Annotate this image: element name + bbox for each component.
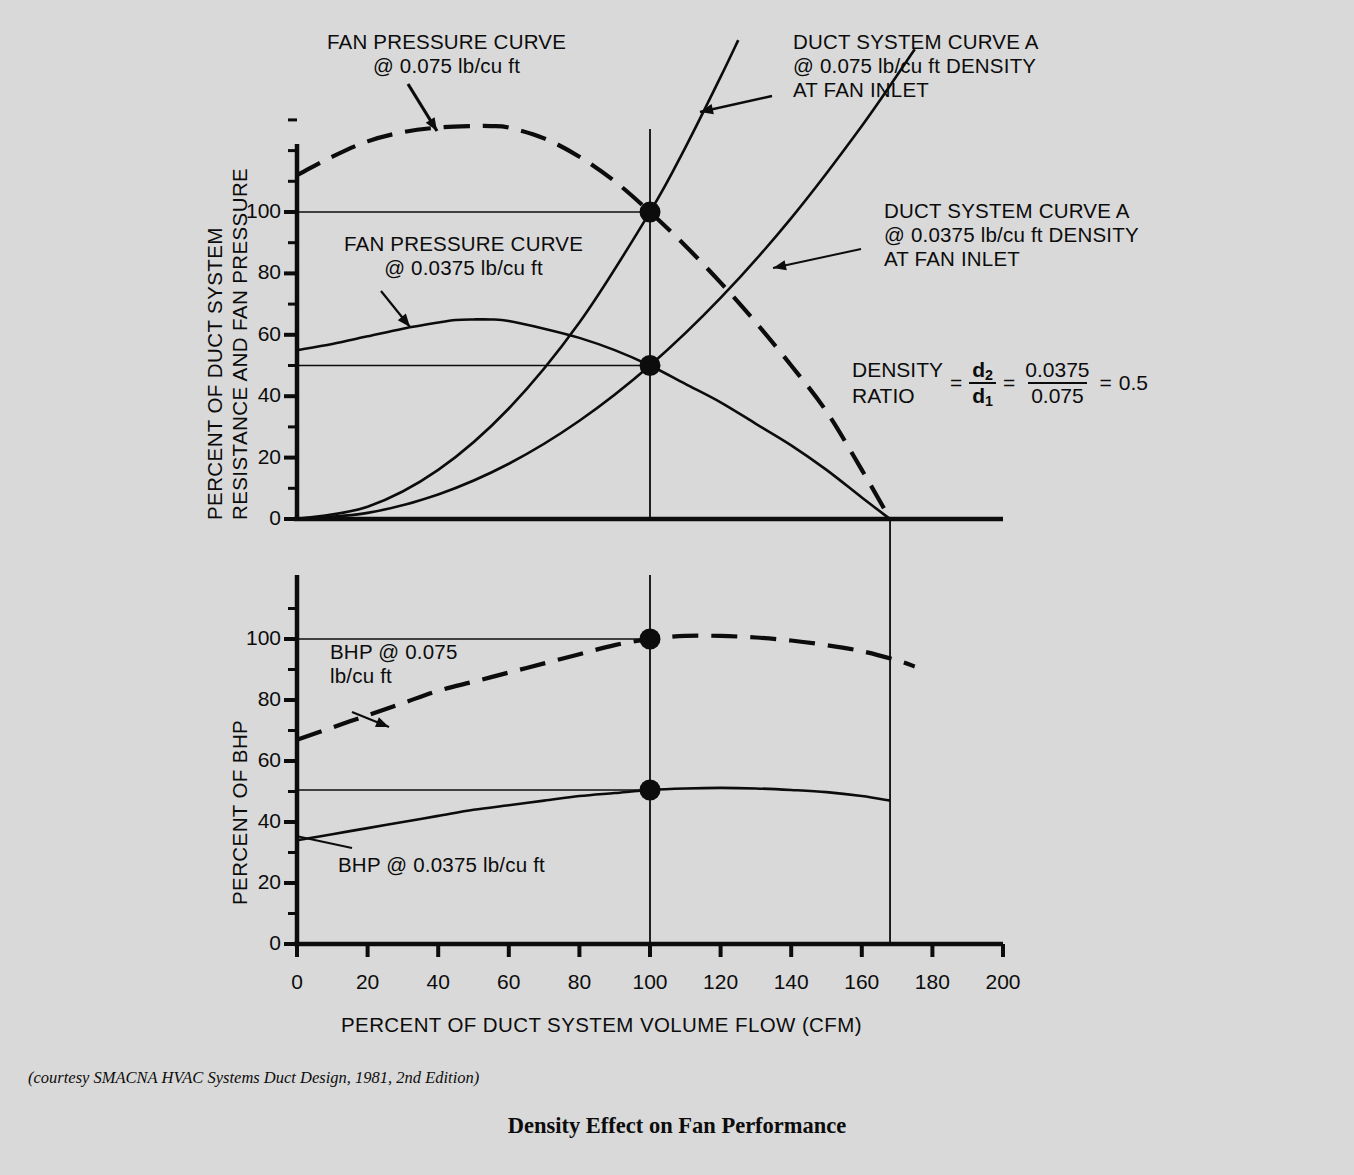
figure-density-effect-on-fan-performance: FAN PRESSURE CURVE @ 0.075 lb/cu ft DUCT… <box>0 0 1354 1175</box>
bhp-chart-y-tick-label-60: 60 <box>227 748 281 773</box>
density-denominator-subscript: 1 <box>985 393 993 409</box>
fan-pressure-curve-0075 <box>297 126 890 519</box>
x-axis-tick-label-40: 40 <box>403 970 473 995</box>
x-axis-tick-label-120: 120 <box>686 970 756 995</box>
equals-sign-3: = <box>1100 371 1112 395</box>
density-ratio-label-line1: DENSITY <box>852 357 943 383</box>
source-caption: (courtesy SMACNA HVAC Systems Duct Desig… <box>28 1068 479 1087</box>
annotation-duct-system-curve-a-0075: DUCT SYSTEM CURVE A @ 0.075 lb/cu ft DEN… <box>793 30 1039 103</box>
pressure-chart-y-tick-label-0: 0 <box>227 506 281 531</box>
density-ratio-label-line2: RATIO <box>852 383 943 409</box>
pressure-chart-y-tick-label-100: 100 <box>227 199 281 224</box>
density-symbol-fraction: d2 d1 <box>969 359 996 406</box>
density-value-fraction: 0.0375 0.075 <box>1022 359 1092 406</box>
density-ratio-equation: DENSITY RATIO = d2 d1 = 0.0375 0.075 = 0… <box>852 357 1148 408</box>
pressure-chart-y-tick-label-80: 80 <box>227 260 281 285</box>
pressure-chart-y-tick-label-40: 40 <box>227 383 281 408</box>
bhp-chart-operating-point-0 <box>640 629 661 650</box>
pressure-chart-operating-point-1 <box>640 355 661 376</box>
annotation-bhp-0075: BHP @ 0.075 lb/cu ft <box>330 640 457 688</box>
bhp-chart-operating-point-1 <box>640 779 661 800</box>
x-axis-title: PERCENT OF DUCT SYSTEM VOLUME FLOW (CFM) <box>341 1013 862 1037</box>
x-axis-tick-label-60: 60 <box>474 970 544 995</box>
pressure-chart-operating-point-0 <box>640 202 661 223</box>
equals-sign-2: = <box>1003 371 1015 395</box>
pressure-chart-y-axis-title-line1: PERCENT OF DUCT SYSTEM <box>203 227 227 520</box>
fan-pressure-curve-00375 <box>297 319 890 519</box>
x-axis-tick-label-80: 80 <box>544 970 614 995</box>
x-axis-tick-label-180: 180 <box>897 970 967 995</box>
density-value-numerator: 0.0375 <box>1022 359 1092 381</box>
x-axis-tick-label-200: 200 <box>968 970 1038 995</box>
density-ratio-label: DENSITY RATIO <box>852 357 943 408</box>
annotation-fan-pressure-curve-0075: FAN PRESSURE CURVE @ 0.075 lb/cu ft <box>304 30 589 78</box>
bhp-curve-00375 <box>297 788 890 840</box>
bhp-chart-y-tick-label-20: 20 <box>227 870 281 895</box>
bhp-chart-y-tick-label-40: 40 <box>227 809 281 834</box>
density-denominator-symbol: d1 <box>969 382 996 406</box>
density-numerator-subscript: 2 <box>985 367 993 383</box>
pressure-chart-y-tick-label-20: 20 <box>227 445 281 470</box>
x-axis-tick-label-140: 140 <box>756 970 826 995</box>
density-numerator-symbol: d2 <box>969 359 996 381</box>
equals-sign-1: = <box>950 371 962 395</box>
annotation-fan-pressure-curve-00375: FAN PRESSURE CURVE @ 0.0375 lb/cu ft <box>312 232 615 280</box>
chart-canvas <box>0 0 1354 1175</box>
x-axis-tick-label-0: 0 <box>262 970 332 995</box>
annotation-duct-system-curve-a-00375: DUCT SYSTEM CURVE A @ 0.0375 lb/cu ft DE… <box>884 199 1139 272</box>
x-axis-tick-label-160: 160 <box>827 970 897 995</box>
x-axis-tick-label-20: 20 <box>333 970 403 995</box>
annotation-bhp-00375: BHP @ 0.0375 lb/cu ft <box>338 853 545 877</box>
x-axis-tick-label-100: 100 <box>615 970 685 995</box>
bhp-chart-y-tick-label-80: 80 <box>227 687 281 712</box>
pressure-chart-y-tick-label-60: 60 <box>227 322 281 347</box>
leader-duct-curve-00375-head <box>773 260 787 270</box>
density-ratio-result: 0.5 <box>1119 371 1148 395</box>
vector-layer <box>284 40 1003 957</box>
bhp-chart-y-tick-label-100: 100 <box>227 626 281 651</box>
leader-bhp-0075-head <box>375 717 389 727</box>
figure-title: Density Effect on Fan Performance <box>0 1113 1354 1140</box>
bhp-chart-y-tick-label-0: 0 <box>227 931 281 956</box>
density-value-denominator: 0.075 <box>1028 382 1087 406</box>
leader-duct-curve-00375 <box>773 249 861 268</box>
leader-bhp-00375 <box>296 836 352 848</box>
